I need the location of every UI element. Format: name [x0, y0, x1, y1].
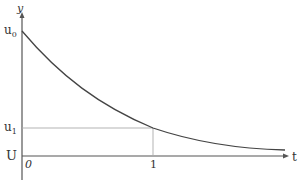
u0-label: u0	[4, 23, 17, 39]
u1-subscript: 1	[12, 127, 17, 136]
u1-label: u1	[4, 120, 17, 136]
U-label: U	[6, 148, 17, 163]
t1-tick-label: 1	[150, 158, 157, 171]
chart-canvas: y t u0 u1 U 0 1	[0, 0, 299, 187]
x-axis-label: t	[292, 150, 297, 164]
y-axis-label: y	[16, 2, 24, 15]
x-axis-arrow-icon	[283, 154, 289, 159]
decay-curve	[22, 31, 285, 150]
origin-tick-label: 0	[25, 158, 32, 171]
u0-subscript: 0	[12, 30, 17, 39]
